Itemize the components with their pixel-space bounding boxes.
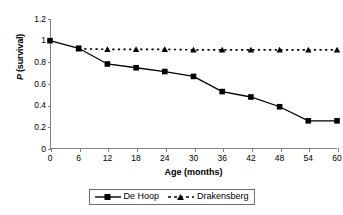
y-axis-tick-label: 1.2 (20, 15, 46, 24)
y-axis-tick-mark (48, 41, 51, 42)
x-axis-tick-label: 42 (236, 153, 266, 163)
x-axis-tick-mark (80, 148, 81, 152)
survival-chart: P (survival) 00.20.40.60.811.2 061218243… (0, 0, 343, 215)
y-axis-tick-label: 0.4 (20, 101, 46, 110)
x-axis-tick-mark (309, 148, 310, 152)
legend-swatch-de-hoop (94, 192, 120, 202)
x-axis-tick-label: 36 (207, 153, 237, 163)
x-axis-title: Age (months) (50, 167, 337, 177)
x-axis-tick-label: 0 (35, 153, 65, 163)
x-axis-tick-mark (195, 148, 196, 152)
chart-legend: De Hoop Drakensberg (88, 189, 254, 205)
x-axis-tick-mark (108, 148, 109, 152)
x-axis-tick-label: 30 (179, 153, 209, 163)
x-axis-tick-labels: 06121824303642485460 (50, 153, 337, 167)
legend-swatch-drakensberg (168, 192, 194, 202)
y-axis-tick-label: 1 (20, 36, 46, 45)
legend-label-drakensberg: Drakensberg (197, 191, 249, 202)
y-axis-tick-mark (48, 19, 51, 20)
y-axis-tick-label: 0.8 (20, 58, 46, 67)
x-axis-tick-label: 12 (92, 153, 122, 163)
legend-entry-de-hoop[interactable]: De Hoop (94, 191, 159, 202)
y-axis-tick-labels: 00.20.40.60.811.2 (14, 0, 46, 215)
y-axis-tick-mark (48, 127, 51, 128)
x-axis-tick-mark (281, 148, 282, 152)
x-axis-tick-mark (166, 148, 167, 152)
x-axis-tick-mark (51, 148, 52, 152)
x-axis-tick-label: 6 (64, 153, 94, 163)
x-axis-tick-mark (223, 148, 224, 152)
x-axis-tick-label: 54 (293, 153, 323, 163)
x-axis-tick-label: 18 (121, 153, 151, 163)
y-axis-tick-mark (48, 62, 51, 63)
plot-area (50, 19, 337, 149)
legend-entry-drakensberg[interactable]: Drakensberg (168, 191, 249, 202)
y-axis-tick-mark (48, 84, 51, 85)
x-axis-tick-mark (252, 148, 253, 152)
legend-label-de-hoop: De Hoop (123, 191, 159, 202)
y-axis-tick-label: 0.6 (20, 80, 46, 89)
x-axis-tick-label: 48 (265, 153, 295, 163)
x-axis-tick-label: 60 (322, 153, 343, 163)
x-axis-tick-mark (137, 148, 138, 152)
y-axis-tick-label: 0.2 (20, 123, 46, 132)
x-axis-tick-mark (338, 148, 339, 152)
x-axis-tick-label: 24 (150, 153, 180, 163)
y-axis-tick-mark (48, 106, 51, 107)
